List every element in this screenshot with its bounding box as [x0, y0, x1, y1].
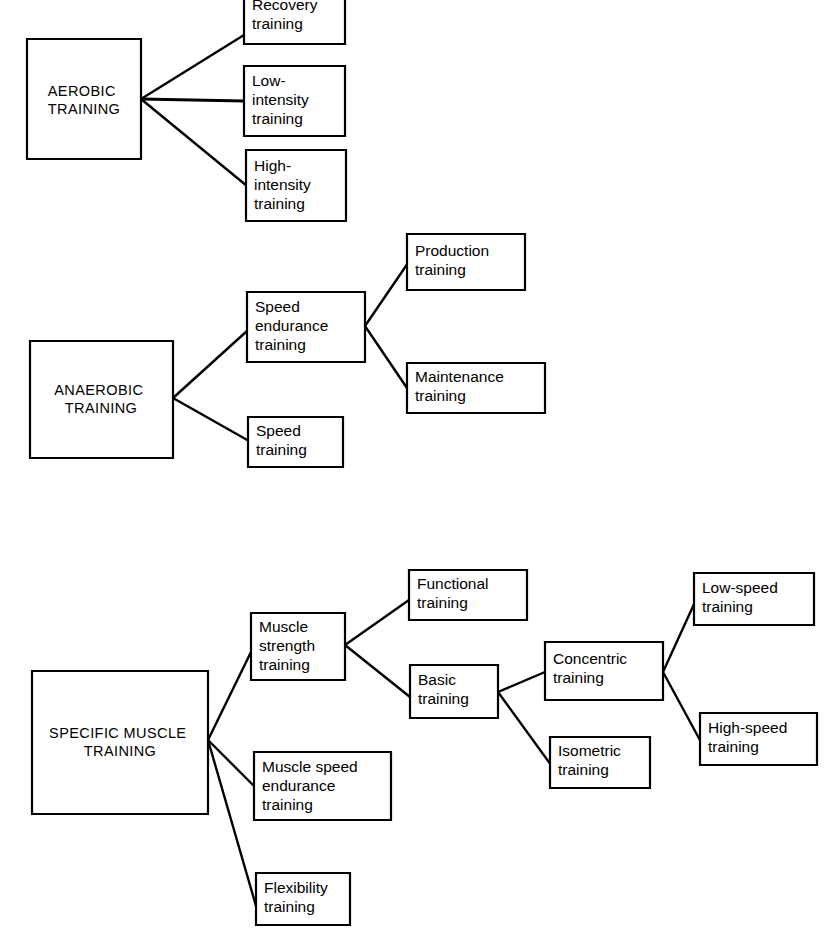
connector-speed-endurance-to-production — [365, 263, 408, 326]
node-isometric-training[interactable]: Isometric training — [550, 737, 650, 788]
node-speed-endurance-training[interactable]: Speed endurance training — [247, 292, 365, 362]
connector-basic-to-isometric — [498, 692, 551, 765]
connector-aerobic-to-high-intensity — [141, 99, 247, 186]
node-anaerobic-training[interactable]: ANAEROBIC TRAINING — [30, 341, 173, 458]
connector-anaerobic-to-speed-endurance — [173, 331, 247, 398]
node-aerobic-training[interactable]: AEROBIC TRAINING — [27, 39, 141, 159]
node-aerobic-training-box — [27, 39, 141, 159]
connector-muscle-strength-to-functional — [345, 600, 409, 645]
node-low-intensity-training[interactable]: Low- intensity training — [244, 66, 345, 136]
diagram-canvas: AEROBIC TRAINING Recovery training Low- … — [0, 0, 839, 932]
node-concentric-training[interactable]: Concentric training — [545, 642, 663, 700]
connector-basic-to-concentric — [498, 672, 545, 692]
node-speed-training[interactable]: Speed training — [248, 417, 343, 467]
connector-concentric-to-high-speed — [663, 672, 701, 742]
node-high-speed-training[interactable]: High-speed training — [700, 713, 817, 765]
node-functional-training[interactable]: Functional training — [409, 570, 527, 620]
connector-speed-endurance-to-maintenance — [365, 326, 409, 391]
node-flexibility-training[interactable]: Flexibility training — [256, 873, 350, 925]
node-low-speed-training[interactable]: Low-speed training — [694, 573, 814, 625]
node-muscle-speed-endurance-training[interactable]: Muscle speed endurance training — [254, 752, 391, 820]
node-production-training[interactable]: Production training — [407, 234, 525, 290]
node-basic-training[interactable]: Basic training — [410, 665, 498, 718]
node-specific-muscle-training[interactable]: SPECIFIC MUSCLE TRAINING — [32, 671, 208, 814]
group-aerobic: AEROBIC TRAINING Recovery training Low- … — [27, 0, 346, 221]
node-maintenance-training[interactable]: Maintenance training — [407, 363, 545, 413]
group-anaerobic: ANAEROBIC TRAINING Speed endurance train… — [30, 234, 545, 467]
connector-aerobic-to-low-intensity — [141, 99, 244, 101]
training-classification-diagram: AEROBIC TRAINING Recovery training Low- … — [0, 0, 839, 932]
node-muscle-strength-training[interactable]: Muscle strength training — [251, 613, 345, 680]
connector-aerobic-to-recovery — [141, 35, 244, 99]
connector-specific-to-muscle-strength — [208, 652, 251, 740]
node-high-intensity-training[interactable]: High- intensity training — [246, 150, 346, 221]
connector-anaerobic-to-speed — [173, 398, 249, 441]
group-specific-muscle: SPECIFIC MUSCLE TRAINING Muscle strength… — [32, 570, 817, 925]
connector-concentric-to-low-speed — [663, 602, 695, 672]
connector-muscle-strength-to-basic — [345, 645, 410, 697]
node-recovery-training[interactable]: Recovery training — [244, 0, 345, 44]
